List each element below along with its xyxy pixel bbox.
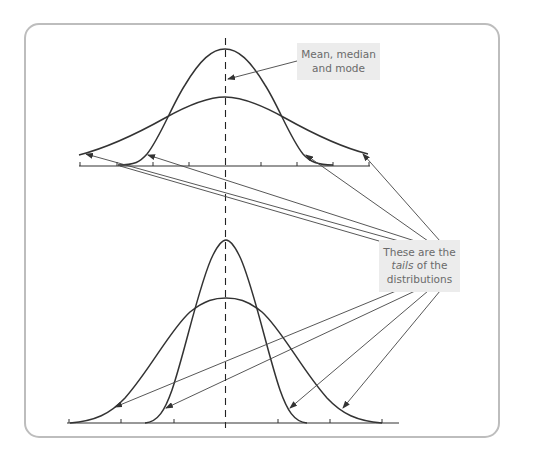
top-panel [79, 49, 440, 241]
distribution-diagram [0, 0, 544, 455]
tail-arrow [306, 155, 428, 241]
tails-label-line1: These are the [383, 246, 455, 260]
tail-arrow [290, 291, 428, 408]
tails-label: These are the tails of the distributions [379, 240, 460, 292]
mean-median-mode-label: Mean, median and mode [297, 43, 380, 80]
tail-arrow [166, 291, 415, 408]
tail-arrow [115, 291, 396, 407]
tails-italic-word: tails [392, 259, 414, 271]
tails-label-line2-rest: of the [413, 259, 447, 271]
mean-label-line1: Mean, median [301, 48, 376, 62]
mean-label-line2: and mode [312, 62, 365, 76]
tail-arrow [120, 166, 379, 241]
top-wide-curve [79, 97, 368, 155]
tail-arrow [343, 291, 440, 408]
tails-label-line2: tails of the [392, 259, 448, 273]
tails-label-line3: distributions [387, 273, 452, 287]
figure-frame [25, 24, 499, 437]
tail-arrow [86, 154, 399, 241]
mean-arrow [228, 61, 297, 79]
